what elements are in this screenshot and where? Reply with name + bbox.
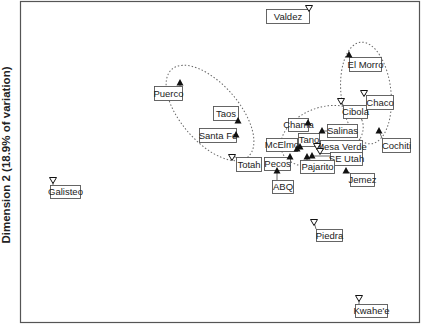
point-label: Piedra [316, 230, 344, 241]
point-label: Totah [237, 159, 260, 170]
point-label: Pecos [264, 158, 291, 169]
point-label: Galisteo [48, 186, 83, 197]
point-label: Valdez [274, 11, 303, 22]
point-label: Kwahe'e [353, 305, 389, 316]
point-label: Pajarito [301, 161, 333, 172]
point-label: Cochiti [382, 140, 411, 151]
point-label: Cibola [342, 106, 370, 117]
point-label: Jemez [349, 174, 377, 185]
point-label: Salinas [327, 125, 358, 136]
scatter-plot: ValdezEl MorroPuercoTaosSanta FeTotahCib… [0, 0, 424, 327]
point-label: Santa Fe [199, 130, 238, 141]
point-label: McElmo [265, 139, 299, 150]
point-label: ABQ [273, 181, 293, 192]
point-label: El Morro [348, 59, 384, 70]
point-label: Puerco [153, 88, 183, 99]
point-label: Taos [216, 108, 236, 119]
y-axis-label: Dimension 2 (18.9% of variation) [0, 30, 14, 280]
point-label: Mesa Verde [316, 141, 367, 152]
point-label: Chaco [366, 97, 393, 108]
